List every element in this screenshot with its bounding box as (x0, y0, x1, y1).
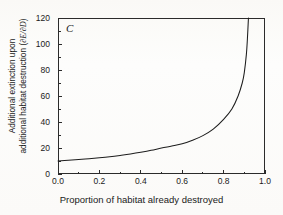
x-tick-label: 1.0 (252, 177, 278, 186)
x-tick-label: 0.4 (128, 177, 154, 186)
x-tick-label: 0.6 (169, 177, 195, 186)
y-tick-label: 120 (36, 14, 50, 23)
x-tick-label: 0.0 (45, 177, 71, 186)
x-tick-label: 0.2 (86, 177, 112, 186)
y-axis-title-line1: Additional extinction upon (7, 39, 17, 134)
y-tick-label: 20 (41, 144, 50, 153)
y-axis-title-derivative-symbol: ∂E/∂D (19, 21, 28, 43)
y-axis-title: Additional extinction upon additional ha… (7, 11, 29, 161)
x-axis-title: Proportion of habitat already destroyed (0, 194, 283, 205)
y-tick-label: 80 (41, 66, 50, 75)
x-tick-label: 0.8 (211, 177, 237, 186)
figure-panel-c: C 020406080100120 Additional extinction … (0, 0, 283, 215)
y-axis-title-line2-suffix: ) (18, 18, 28, 21)
x-axis-tick-labels: 0.00.20.40.60.81.0 (0, 177, 283, 191)
y-tick-label: 100 (36, 40, 50, 49)
y-axis-title-line2-prefix: additional habitat destruction ( (18, 43, 28, 154)
extinction-rate-curve (58, 18, 248, 161)
y-tick-label: 60 (41, 92, 50, 101)
y-tick-label: 40 (41, 118, 50, 127)
